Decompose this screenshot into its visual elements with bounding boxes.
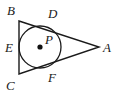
tangent-label-e: E xyxy=(4,40,13,55)
vertex-label-c: C xyxy=(6,78,15,93)
tangent-label-f: F xyxy=(47,70,57,85)
tangent-label-d: D xyxy=(47,6,58,21)
geometry-canvas: B C A D E F P xyxy=(0,0,119,94)
vertex-label-b: B xyxy=(7,3,15,18)
center-point-dot xyxy=(37,44,42,49)
center-label-p: P xyxy=(44,32,53,47)
geometry-figure: B C A D E F P xyxy=(0,0,119,94)
vertex-label-a: A xyxy=(102,40,111,55)
